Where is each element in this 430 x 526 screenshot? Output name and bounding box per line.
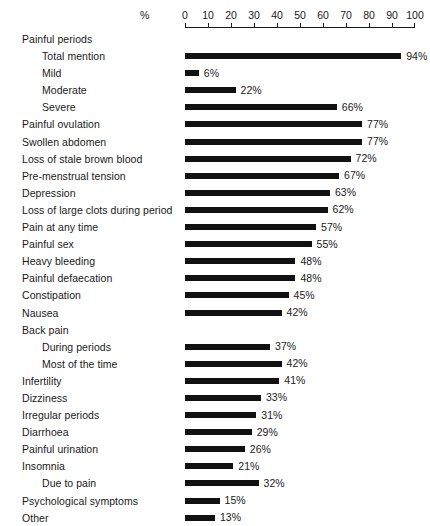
bar-value-label: 94% (406, 50, 427, 62)
bar (185, 378, 279, 384)
x-axis-tick (414, 23, 415, 27)
bar-value-label: 33% (266, 391, 287, 403)
bar-track: 26% (185, 441, 415, 458)
chart-bar-row: Loss of stale brown blood72% (0, 151, 430, 168)
x-axis-tick-label: 40 (271, 9, 283, 21)
bar-track: 72% (185, 151, 415, 168)
x-axis-tick-label: 100 (406, 9, 424, 21)
bar-track: 42% (185, 356, 415, 373)
bar-category-label: Painful defaecation (22, 272, 112, 284)
chart-bar-row: Other13% (0, 510, 430, 526)
bar-track: 13% (185, 510, 415, 526)
bar-category-label: Painful ovulation (22, 118, 100, 130)
bar (185, 429, 252, 435)
chart-bar-row: Loss of large clots during period62% (0, 202, 430, 219)
bar-value-label: 21% (238, 460, 259, 472)
bar-value-label: 72% (356, 152, 377, 164)
bar-track: 33% (185, 390, 415, 407)
bar-category-label: Loss of large clots during period (22, 204, 173, 216)
bar-track: 63% (185, 185, 415, 202)
bar-category-label: Nausea (22, 307, 59, 319)
bar (185, 104, 337, 110)
chart-bar-row: Depression63% (0, 185, 430, 202)
chart-bar-row: Psychological symptoms15% (0, 493, 430, 510)
bar-track: 45% (185, 287, 415, 304)
x-axis-tick (346, 23, 347, 27)
chart-bar-row: Due to pain32% (0, 475, 430, 492)
bar-value-label: 48% (300, 272, 321, 284)
bar-track: 67% (185, 168, 415, 185)
bar (185, 446, 245, 452)
chart-bar-row: Moderate22% (0, 82, 430, 99)
chart-group-header-row: Painful periods (0, 31, 430, 48)
chart-bar-row: Nausea42% (0, 305, 430, 322)
x-axis-tick-label: 50 (294, 9, 306, 21)
bar (185, 463, 233, 469)
bar-track: 57% (185, 219, 415, 236)
bar-track: 42% (185, 305, 415, 322)
bar-value-label: 32% (264, 477, 285, 489)
bar (185, 190, 330, 196)
bar-value-label: 66% (342, 101, 363, 113)
bar (185, 480, 259, 486)
bar-category-label: Due to pain (42, 477, 96, 489)
chart-bar-row: Pain at any time57% (0, 219, 430, 236)
chart-bar-row: Total mention94% (0, 48, 430, 65)
x-axis-tick (185, 23, 186, 27)
bar-value-label: 42% (287, 357, 308, 369)
chart-bar-row: Constipation45% (0, 287, 430, 304)
bar-value-label: 42% (287, 306, 308, 318)
chart-group-header-row: Back pain (0, 322, 430, 339)
chart-bar-row: Diarrhoea29% (0, 424, 430, 441)
bar (185, 241, 312, 247)
chart-rows: Painful periodsTotal mention94%Mild6%Mod… (0, 31, 430, 526)
bar (185, 70, 199, 76)
bar-track: 41% (185, 373, 415, 390)
x-axis-tick (277, 23, 278, 27)
bar-category-label: Diarrhoea (22, 426, 69, 438)
bar-category-label: Irregular periods (22, 409, 99, 421)
bar-track: 48% (185, 253, 415, 270)
chart-bar-row: Severe66% (0, 99, 430, 116)
chart-bar-row: Infertility41% (0, 373, 430, 390)
x-axis-tick (254, 23, 255, 27)
x-axis-tick-label: 60 (317, 9, 329, 21)
bar-category-label: Painful urination (22, 443, 98, 455)
x-axis-tick-label: 20 (225, 9, 237, 21)
bar (185, 412, 256, 418)
bar-category-label: Severe (42, 101, 76, 113)
bar-category-label: Other (22, 512, 49, 524)
bar-category-label: Painful periods (22, 33, 92, 45)
bar-value-label: 67% (344, 169, 365, 181)
bar-category-label: Pain at any time (22, 221, 98, 233)
bar-value-label: 13% (220, 511, 241, 523)
bar-track: 32% (185, 475, 415, 492)
x-axis-tick-label: 0 (182, 9, 188, 21)
x-axis-tick-label: 10 (202, 9, 214, 21)
bar-value-label: 29% (257, 426, 278, 438)
bar-track: 15% (185, 493, 415, 510)
bar-value-label: 22% (241, 84, 262, 96)
x-axis-line (185, 27, 415, 28)
x-axis-tick (231, 23, 232, 27)
bar-track: 77% (185, 134, 415, 151)
bar (185, 139, 362, 145)
x-axis-tick (323, 23, 324, 27)
bar (185, 275, 295, 281)
bar-value-label: 37% (275, 340, 296, 352)
bar-track: 6% (185, 65, 415, 82)
chart-bar-row: Dizziness33% (0, 390, 430, 407)
bar-value-label: 77% (367, 135, 388, 147)
bar-value-label: 41% (284, 374, 305, 386)
x-axis-tick (208, 23, 209, 27)
bar (185, 173, 339, 179)
bar-track: 29% (185, 424, 415, 441)
bar-category-label: Back pain (22, 324, 69, 336)
bar (185, 361, 282, 367)
chart-bar-row: Painful sex55% (0, 236, 430, 253)
bar-category-label: Heavy bleeding (22, 255, 95, 267)
chart-bar-row: Painful ovulation77% (0, 116, 430, 133)
bar-value-label: 6% (204, 67, 219, 79)
chart-bar-row: Painful urination26% (0, 441, 430, 458)
